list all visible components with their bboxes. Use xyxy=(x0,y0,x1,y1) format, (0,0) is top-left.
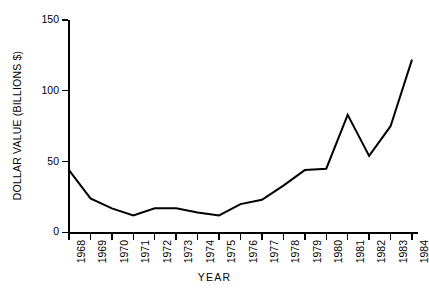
x-axis-line xyxy=(68,232,418,234)
y-tick-mark xyxy=(62,90,68,91)
x-tick-mark xyxy=(218,234,219,240)
x-tick-mark xyxy=(111,234,112,240)
y-tick-mark xyxy=(62,19,68,20)
x-tick-mark xyxy=(326,234,327,240)
x-tick-mark xyxy=(90,234,91,240)
x-tick-mark xyxy=(154,234,155,240)
x-tick-mark xyxy=(411,234,412,240)
x-tick-mark xyxy=(283,234,284,240)
x-tick-mark xyxy=(368,234,369,240)
line-chart-figure: DOLLAR VALUE (BILLIONS $) 050100150 1968… xyxy=(0,0,429,295)
series-polyline xyxy=(69,60,412,216)
y-tick-label: 150 xyxy=(28,14,59,25)
x-tick-mark xyxy=(304,234,305,240)
y-tick-label: 0 xyxy=(28,226,59,237)
y-axis-line xyxy=(68,20,70,234)
y-tick-mark xyxy=(62,232,68,233)
y-tick-label: 100 xyxy=(28,85,59,96)
y-tick-label: 50 xyxy=(28,156,59,167)
x-tick-mark xyxy=(175,234,176,240)
x-axis-title: YEAR xyxy=(0,271,429,283)
x-tick-mark xyxy=(390,234,391,240)
y-axis-title: DOLLAR VALUE (BILLIONS $) xyxy=(6,8,28,243)
x-tick-mark xyxy=(133,234,134,240)
y-tick-mark xyxy=(62,161,68,162)
x-tick-mark xyxy=(347,234,348,240)
x-tick-mark xyxy=(261,234,262,240)
x-tick-mark xyxy=(197,234,198,240)
x-tick-mark xyxy=(68,234,69,240)
x-tick-mark xyxy=(240,234,241,240)
